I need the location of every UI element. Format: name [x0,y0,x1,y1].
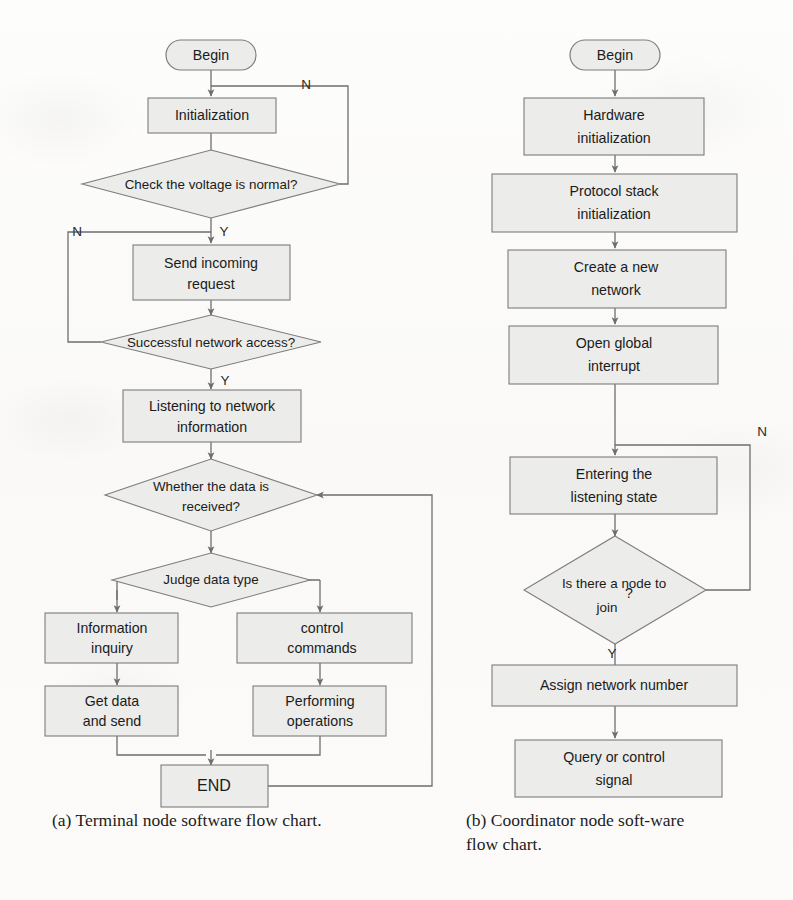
node-b-hardware-init-line1: Hardware [583,107,645,123]
node-b-node-join-line2: join [596,600,618,615]
branch-a-access-y: Y [220,373,229,388]
node-a-info-inquiry[interactable]: Information inquiry [45,613,178,663]
node-b-hardware-init[interactable]: Hardware initialization [524,98,704,155]
shapes-a: Begin Initialization Check the voltage i… [45,40,412,807]
node-b-protocol-init-line1: Protocol stack [569,183,659,199]
node-b-assign-number[interactable]: Assign network number [492,665,737,706]
node-a-judge-type-label: Judge data type [163,572,258,587]
node-a-perform-ops[interactable]: Performing operations [253,686,386,736]
node-a-info-inquiry-line1: Information [77,620,148,636]
node-b-open-interrupt-line2: interrupt [588,358,640,374]
node-a-get-data-line2: and send [83,713,141,729]
node-b-node-join[interactable]: Is there a node to join ? [524,536,706,644]
node-a-data-received[interactable]: Whether the data is received? [105,459,317,531]
caption-a: (a) Terminal node software flow chart. [52,808,432,832]
node-a-check-voltage-label: Check the voltage is normal? [125,177,298,192]
node-b-begin-label: Begin [597,47,633,63]
node-b-query-signal[interactable]: Query or control signal [515,740,722,797]
diagram-a: Begin Initialization Check the voltage i… [45,40,432,807]
node-b-listening-state-line1: Entering the [576,466,653,482]
node-b-query-signal-line2: signal [595,772,632,788]
node-b-create-network[interactable]: Create a new network [508,250,726,308]
node-a-end[interactable]: END [161,765,268,807]
node-a-end-label: END [197,777,231,794]
node-a-get-data[interactable]: Get data and send [45,686,178,736]
edge-perform-end [216,736,320,755]
node-b-hardware-init-line2: initialization [577,130,650,146]
node-a-begin-label: Begin [193,47,229,63]
node-a-judge-type[interactable]: Judge data type [112,553,310,607]
node-b-protocol-init[interactable]: Protocol stack initialization [492,174,737,232]
node-b-listening-state-line2: listening state [571,489,658,505]
node-a-initialization-label: Initialization [175,107,249,123]
node-a-listening-line1: Listening to network [149,398,276,414]
node-b-node-join-question-mark: ? [625,585,633,601]
connectors-b [615,70,750,738]
node-a-control-commands-line2: commands [287,640,356,656]
node-a-check-voltage[interactable]: Check the voltage is normal? [82,150,340,218]
branch-b-join-y: Y [607,646,616,661]
node-b-create-network-line1: Create a new [574,259,659,275]
node-a-info-inquiry-line2: inquiry [91,640,134,656]
branch-a-voltage-y: Y [219,224,228,239]
node-a-data-received-line1: Whether the data is [153,479,269,494]
branch-b-join-n: N [757,424,767,439]
node-b-query-signal-line1: Query or control [563,749,665,765]
branch-a-voltage-n: N [301,77,311,92]
caption-b: (b) Coordinator node soft-ware flow char… [466,808,716,856]
node-a-data-received-line2: received? [182,499,240,514]
node-a-control-commands[interactable]: control commands [237,613,412,663]
node-a-get-data-line1: Get data [85,693,140,709]
node-a-begin[interactable]: Begin [166,40,256,70]
node-a-send-request[interactable]: Send incoming request [133,245,290,300]
node-a-initialization[interactable]: Initialization [148,98,276,133]
node-b-listening-state[interactable]: Entering the listening state [510,457,717,514]
node-a-perform-ops-line2: operations [287,713,353,729]
node-a-send-request-line2: request [187,276,234,292]
node-a-control-commands-line1: control [301,620,344,636]
node-a-listening-line2: information [177,419,247,435]
node-b-open-interrupt-line1: Open global [576,335,653,351]
node-b-node-join-line1: Is there a node to [562,576,666,591]
node-b-begin[interactable]: Begin [570,40,660,70]
flowchart-canvas: Begin Initialization Check the voltage i… [0,0,793,900]
edge-getdata-end [117,736,206,755]
node-b-assign-number-label: Assign network number [540,677,689,693]
node-a-perform-ops-line1: Performing [285,693,354,709]
diagram-b: Begin Hardware initialization Protocol s… [492,40,767,797]
node-a-network-access-label: Successful network access? [127,335,295,350]
node-a-listening[interactable]: Listening to network information [123,390,301,442]
node-b-open-interrupt[interactable]: Open global interrupt [509,326,718,384]
figure-page: Begin Initialization Check the voltage i… [0,0,793,900]
node-b-protocol-init-line2: initialization [577,206,650,222]
node-a-send-request-line1: Send incoming [164,255,258,271]
node-b-create-network-line2: network [591,282,642,298]
branch-a-access-n: N [72,224,82,239]
node-a-network-access[interactable]: Successful network access? [101,315,321,369]
